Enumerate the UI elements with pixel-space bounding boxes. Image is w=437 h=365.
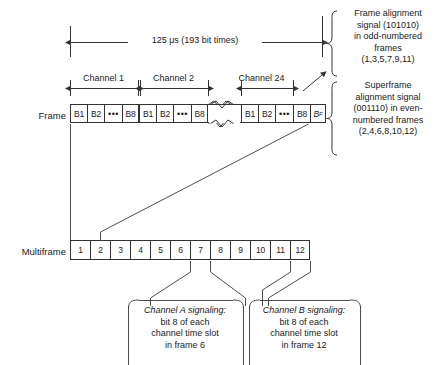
expansion-leader-diagonal	[101, 124, 309, 240]
channel-b-leader-left	[263, 261, 291, 306]
frame-alignment-brace	[327, 11, 338, 76]
channel-a-leader-left	[151, 261, 191, 306]
channel-b-box-corner-right	[350, 300, 361, 308]
figure-canvas: 125 μs (193 bit times) Channel 1 Channel…	[0, 0, 437, 365]
diagram-vector-overlay	[0, 0, 437, 365]
channel-b-box-corner-left	[250, 300, 261, 308]
channel-a-box-corner-right	[233, 300, 244, 308]
channel-a-leader-right	[211, 261, 246, 306]
channel-a-box-corner-left	[129, 300, 140, 308]
channel-b-leader-right	[269, 261, 311, 306]
framing-bit-pointer-arrow	[303, 75, 322, 91]
frame-break-mask	[209, 105, 240, 123]
superframe-alignment-brace	[327, 82, 338, 155]
